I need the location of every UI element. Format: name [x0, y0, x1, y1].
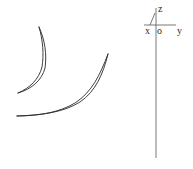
upper-blade-profile — [18, 27, 46, 93]
y-axis-label: y — [177, 25, 182, 36]
x-axis-label: x — [145, 25, 150, 36]
origin-label: o — [157, 25, 162, 36]
x-axis-oblique-line — [150, 13, 155, 25]
upper-blade-suction-side — [18, 27, 43, 93]
z-axis-label: z — [158, 3, 163, 14]
axis-labels: z x o y — [145, 3, 182, 36]
diagram-canvas: z x o y — [0, 0, 193, 169]
